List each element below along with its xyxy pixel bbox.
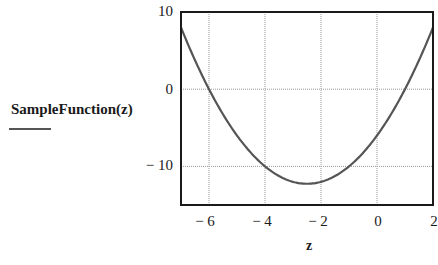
y-tick-label: 10 [113, 3, 173, 20]
y-tick-label: 0 [113, 81, 173, 98]
y-axis-label-underline [9, 128, 51, 130]
x-tick-label: 0 [358, 213, 398, 230]
y-tick-label: − 10 [113, 157, 173, 174]
x-tick-label: − 2 [298, 213, 338, 230]
x-tick-label: 2 [414, 213, 438, 230]
function-curve [181, 27, 433, 183]
x-tick-label: − 4 [242, 213, 282, 230]
y-axis-label: SampleFunction(z) [11, 101, 133, 118]
x-axis-label: z [306, 238, 312, 254]
x-tick-label: − 6 [185, 213, 225, 230]
